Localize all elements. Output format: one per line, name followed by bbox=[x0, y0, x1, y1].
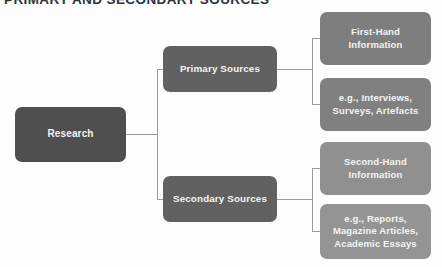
node-first-hand-line-2: Information bbox=[349, 39, 403, 52]
node-first-hand-line-1: First-Hand bbox=[349, 26, 403, 39]
node-primary-sources: Primary Sources bbox=[163, 46, 277, 92]
node-eg-primary-examples: e.g., Interviews, Surveys, Artefacts bbox=[320, 78, 431, 131]
node-second-hand-line-1: Second-Hand bbox=[344, 156, 407, 169]
node-first-hand-information: First-Hand Information bbox=[320, 12, 431, 65]
node-secondary-sources: Secondary Sources bbox=[163, 176, 277, 222]
node-eg-secondary-line-1: e.g., Reports, bbox=[333, 213, 418, 226]
page-title: PRIMARY AND SECONDARY SOURCES bbox=[4, 0, 269, 7]
node-eg-primary-line-1: e.g., Interviews, bbox=[333, 92, 419, 105]
connector-primary-trunk bbox=[312, 38, 313, 105]
connector-secondary-stub bbox=[277, 199, 313, 200]
node-eg-primary-line-2: Surveys, Artefacts bbox=[333, 105, 419, 118]
node-second-hand-information: Second-Hand Information bbox=[320, 142, 431, 195]
node-research-label: Research bbox=[47, 128, 93, 141]
node-research: Research bbox=[15, 107, 126, 162]
node-eg-secondary-line-3: Academic Essays bbox=[333, 238, 418, 251]
diagram-canvas: PRIMARY AND SECONDARY SOURCES Research P… bbox=[0, 0, 442, 267]
node-primary-sources-label: Primary Sources bbox=[180, 63, 260, 76]
node-second-hand-line-2: Information bbox=[344, 169, 407, 182]
page-title-clipped: PRIMARY AND SECONDARY SOURCES bbox=[0, 0, 442, 9]
node-secondary-sources-label: Secondary Sources bbox=[173, 193, 267, 206]
node-eg-secondary-examples: e.g., Reports, Magazine Articles, Academ… bbox=[320, 204, 431, 259]
connector-secondary-trunk bbox=[312, 168, 313, 232]
connector-root-stub bbox=[126, 134, 158, 135]
connector-primary-stub bbox=[277, 69, 313, 70]
connector-root-trunk bbox=[157, 69, 158, 200]
node-eg-secondary-line-2: Magazine Articles, bbox=[333, 225, 418, 238]
